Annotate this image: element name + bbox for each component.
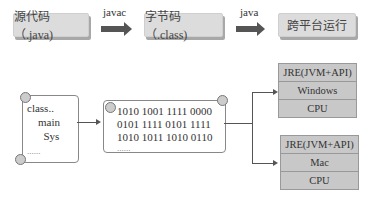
bytecode-scroll: 1010 1001 1111 0000 0101 1111 0101 1111 … <box>103 100 226 153</box>
source-line: class.. <box>27 101 54 115</box>
branch-connector <box>224 123 252 124</box>
arrowhead-icon <box>273 160 278 166</box>
bytecode-line: 1010 1001 1111 0000 <box>117 104 212 118</box>
jre-layer: JRE(JVM+API) <box>279 64 356 82</box>
mac-platform-stack: JRE(JVM+API) Mac CPU <box>280 135 359 190</box>
bytecode-line: 1010 1011 1010 0110 <box>117 130 212 144</box>
javac-label: javac <box>103 6 126 18</box>
source-line: Sys <box>27 129 59 143</box>
scroll-curl-icon <box>217 95 228 106</box>
java-label: java <box>240 6 258 18</box>
scroll-curl-icon <box>15 154 26 165</box>
source-code-scroll: class.. main Sys ...... <box>22 95 79 163</box>
branch-connector <box>252 92 274 93</box>
compile-connector <box>77 122 98 123</box>
source-line: ...... <box>27 144 41 158</box>
bytecode-line: ...... <box>117 141 131 155</box>
scroll-curl-icon <box>105 102 116 113</box>
bytecode-line: 0101 1111 0101 1111 <box>117 117 211 131</box>
jre-layer: JRE(JVM+API) <box>281 136 358 154</box>
source-line: main <box>27 115 60 129</box>
source-code-box: 源代码（.java) <box>13 13 89 37</box>
cross-platform-box: 跨平台运行 <box>278 13 356 37</box>
cpu-layer: CPU <box>279 100 356 117</box>
os-layer: Mac <box>281 154 358 172</box>
branch-connector <box>252 92 253 164</box>
windows-platform-stack: JRE(JVM+API) Windows CPU <box>278 63 357 118</box>
java-arrow <box>236 26 258 32</box>
branch-connector <box>252 163 274 164</box>
arrowhead-icon <box>96 119 101 125</box>
cpu-layer: CPU <box>281 172 358 189</box>
bytecode-box: 字节码（.class) <box>144 13 223 37</box>
os-layer: Windows <box>279 82 356 100</box>
javac-arrow <box>101 26 125 32</box>
